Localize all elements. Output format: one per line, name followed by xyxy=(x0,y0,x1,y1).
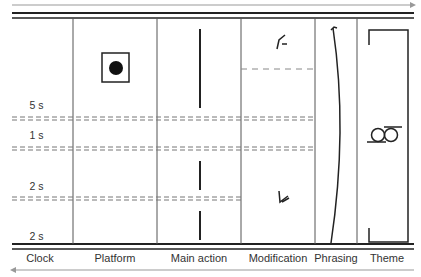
time-line-5s xyxy=(12,117,315,120)
column-label-platform: Platform xyxy=(73,252,157,264)
column-label-clock: Clock xyxy=(10,252,70,264)
column-label-main-action: Main action xyxy=(157,252,241,264)
arrow-down-left-symbol-icon xyxy=(279,191,289,202)
clock-mark-label: 5 s xyxy=(0,99,73,111)
phrasing-bow-icon xyxy=(331,27,340,243)
time-line-1s xyxy=(12,147,315,150)
column-label-phrasing: Phrasing xyxy=(313,252,359,264)
square-with-dot-icon xyxy=(102,53,129,82)
theme-bracket-with-rings-icon xyxy=(367,30,408,242)
hook-symbol-icon xyxy=(277,35,287,49)
column-label-modification: Modification xyxy=(241,252,315,264)
clock-mark-label: 1 s xyxy=(0,129,73,141)
clock-mark-label: 2 s xyxy=(0,230,73,242)
column-label-theme: Theme xyxy=(360,252,414,264)
clock-mark-label: 2 s xyxy=(0,180,73,192)
time-line-2s xyxy=(12,197,241,200)
time-arrow-top xyxy=(12,2,416,8)
time-arrow-bottom xyxy=(10,267,414,273)
